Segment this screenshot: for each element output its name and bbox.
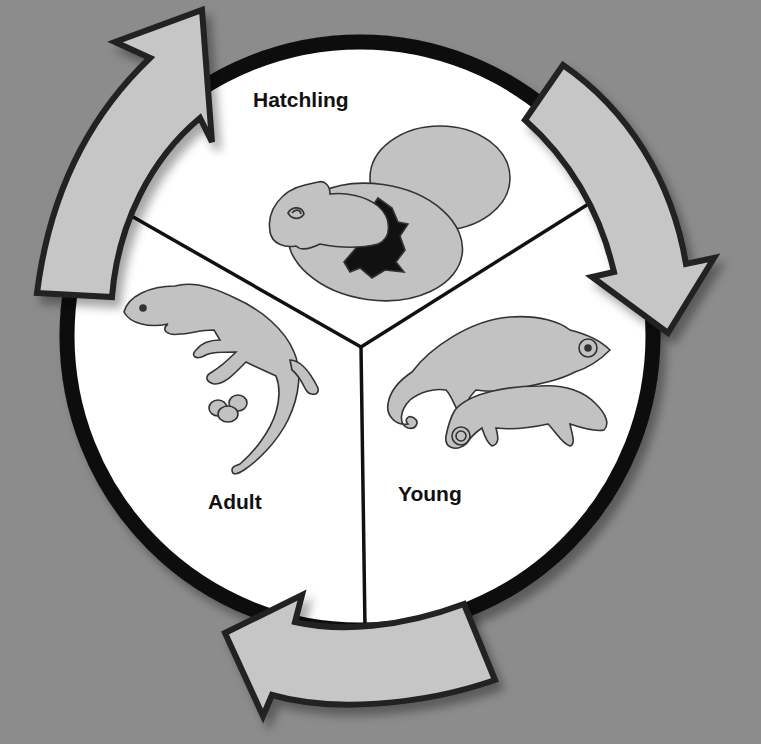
egg-icon [218, 406, 238, 422]
stage-label-adult: Adult [208, 490, 262, 514]
life-cycle-diagram [0, 0, 761, 744]
stage-label-hatchling: Hatchling [253, 88, 349, 112]
stage-label-young: Young [398, 482, 462, 506]
